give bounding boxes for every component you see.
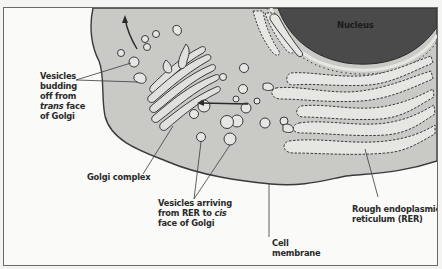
- diagram-frame: Nucleus Vesicles budding off from trans …: [3, 7, 438, 266]
- label-golgi-complex: Golgi complex: [87, 172, 150, 182]
- label-rough-er: Rough endoplasmic reticulum (RER): [352, 204, 438, 224]
- label-vesicles-arriving: Vesicles arriving from RER to cis face o…: [158, 198, 232, 228]
- label-cell-membrane: Cell membrane: [272, 238, 320, 258]
- nucleus-label: Nucleus: [337, 20, 374, 30]
- label-vesicles-budding: Vesicles budding off from trans face of …: [40, 71, 85, 121]
